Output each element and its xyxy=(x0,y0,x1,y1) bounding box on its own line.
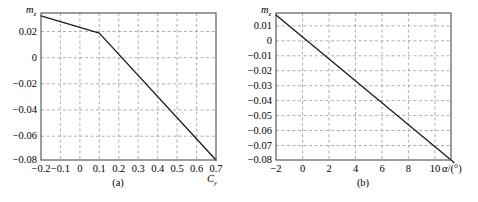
grid-lines-a xyxy=(41,13,216,160)
y-tick-b-4: −0.03 xyxy=(239,81,272,92)
y-tick-b-0: 0.01 xyxy=(239,21,272,32)
plot-frame-a xyxy=(41,13,216,160)
x-tick-b-1: 0 xyxy=(288,164,318,175)
data-line-a xyxy=(41,16,216,160)
x-tick-b-0: −2 xyxy=(261,164,291,175)
figure-container: mz 0.02 0 −0.02 −0.04 −0.06 −0.08 −0.2 −… xyxy=(0,0,478,202)
y-tick-b-3: −0.02 xyxy=(239,66,272,77)
chart-panel-b: mz 0.01 0 −0.01 −0.02 −0.03 −0.04 −0.05 … xyxy=(239,0,478,202)
y-tick-b-5: −0.04 xyxy=(239,96,272,107)
panel-caption-b: (b) xyxy=(343,178,383,189)
y-tick-a-0: 0.02 xyxy=(0,27,37,38)
x-tick-b-5: 8 xyxy=(393,164,423,175)
y-tick-a-2: −0.02 xyxy=(0,79,37,90)
y-tick-a-1: 0 xyxy=(0,53,37,64)
y-tick-b-8: −0.07 xyxy=(239,141,272,152)
y-tick-b-2: −0.01 xyxy=(239,51,272,62)
x-tick-a-9: 0.7 xyxy=(201,164,231,175)
y-tick-b-1: 0 xyxy=(239,36,272,47)
x-tick-b-2: 2 xyxy=(314,164,344,175)
y-tick-b-7: −0.06 xyxy=(239,126,272,137)
x-axis-label-b: α/(°) xyxy=(442,164,462,175)
chart-panel-a: mz 0.02 0 −0.02 −0.04 −0.06 −0.08 −0.2 −… xyxy=(0,0,239,202)
y-tick-a-4: −0.06 xyxy=(0,131,37,142)
y-axis-label-b: mz xyxy=(261,5,271,18)
y-tick-a-3: −0.04 xyxy=(0,105,37,116)
x-axis-label-a: Cy xyxy=(207,174,217,187)
y-axis-label-a: mz xyxy=(26,5,36,18)
y-tick-b-6: −0.05 xyxy=(239,111,272,122)
x-tick-b-3: 4 xyxy=(341,164,371,175)
panel-caption-a: (a) xyxy=(98,178,138,189)
